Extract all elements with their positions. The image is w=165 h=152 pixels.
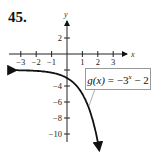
- y-tick-label: 2: [58, 33, 62, 43]
- x-tick-label: −1: [47, 57, 56, 67]
- y-tick-label: −8: [53, 113, 62, 123]
- x-tick-label: 3: [111, 57, 115, 67]
- y-tick-label: −6: [53, 97, 62, 107]
- x-tick-label: 1: [80, 57, 84, 67]
- y-tick-label: −10: [49, 129, 62, 139]
- x-tick-label: −3: [16, 57, 25, 67]
- x-tick-label: 2: [96, 57, 100, 67]
- function-label-box: g(x) = −3x − 2: [85, 68, 151, 90]
- x-tick-label: −2: [32, 57, 41, 67]
- label-pointer: [89, 89, 95, 106]
- x-axis-label: x: [130, 50, 135, 59]
- function-label: g(x) = −3x − 2: [87, 73, 148, 86]
- y-tick-label: −4: [53, 81, 63, 91]
- y-axis-label: y: [63, 10, 68, 19]
